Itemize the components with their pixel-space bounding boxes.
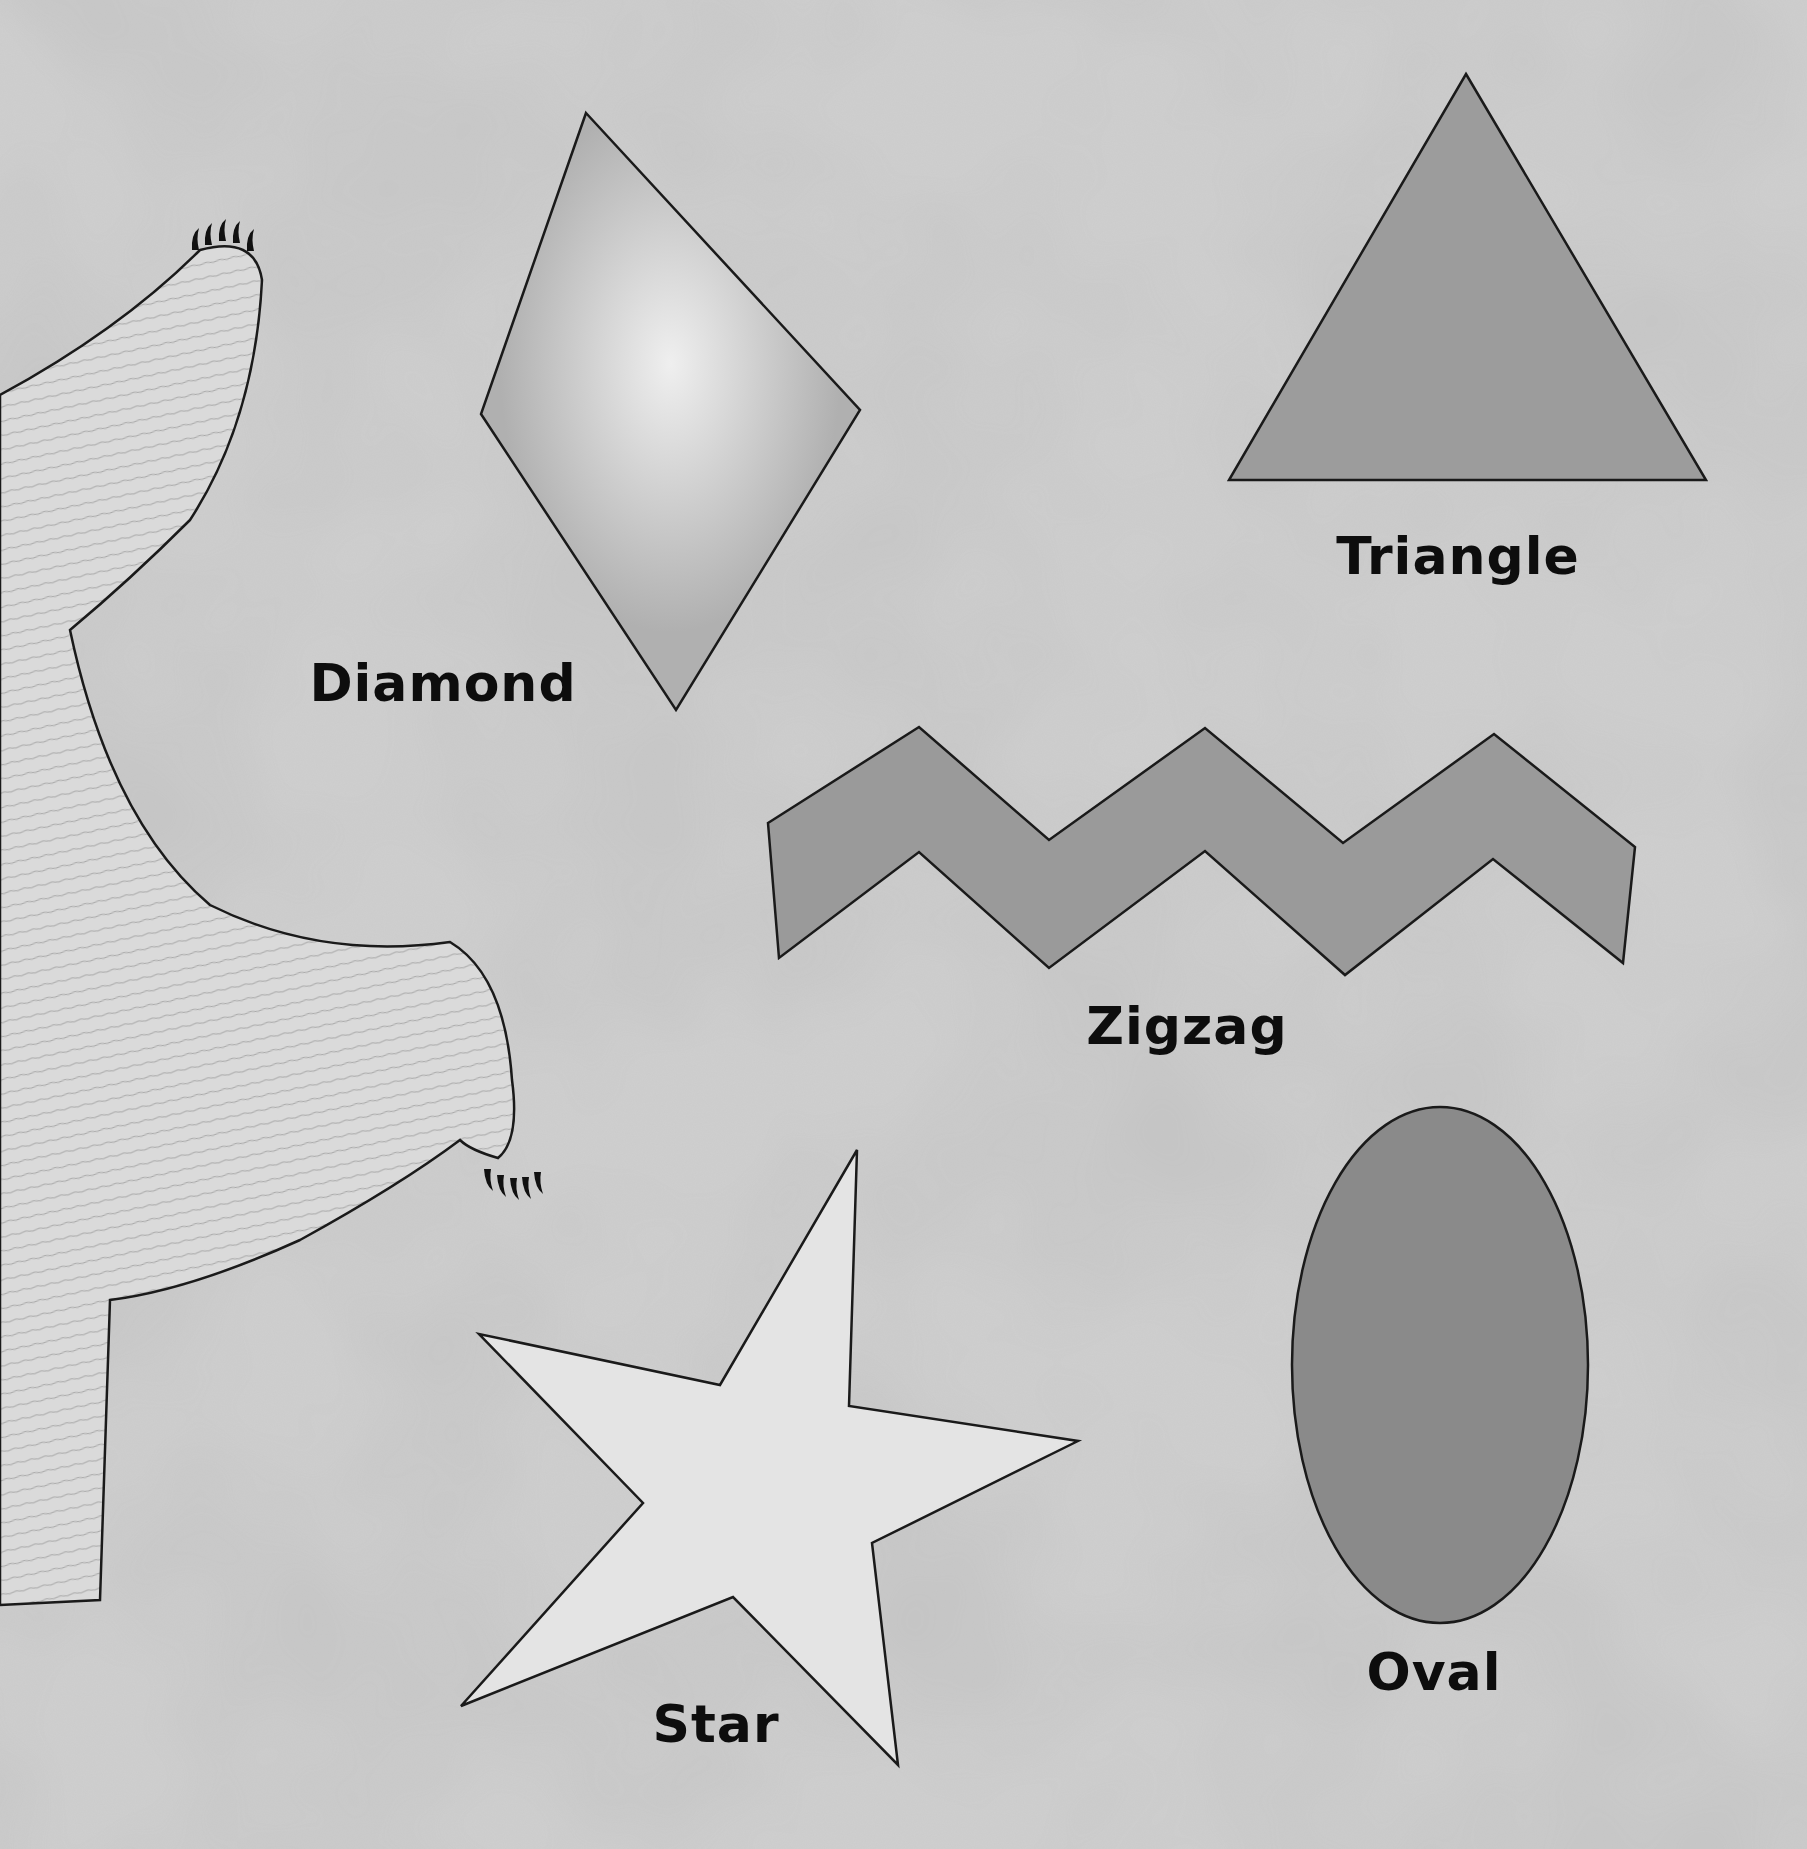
oval-label: Oval — [1366, 1642, 1501, 1702]
triangle-label: Triangle — [1336, 526, 1580, 586]
diamond-label: Diamond — [309, 653, 576, 713]
zigzag-label: Zigzag — [1086, 996, 1287, 1056]
shapes-illustration — [0, 0, 1807, 1849]
oval-shape — [1292, 1107, 1588, 1623]
illustration-page: DiamondTriangleZigzagStarOval — [0, 0, 1807, 1849]
star-label: Star — [652, 1694, 779, 1754]
